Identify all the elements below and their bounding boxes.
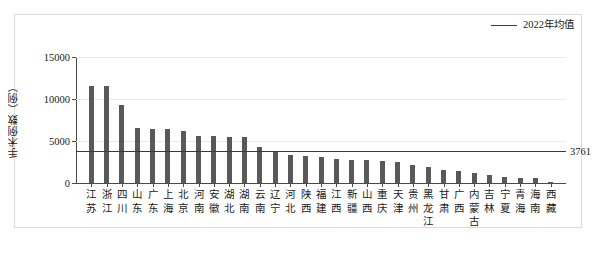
legend-line-swatch: [491, 25, 517, 26]
x-tick-label: 上海: [161, 188, 174, 215]
bar: [104, 86, 109, 183]
x-tick-mark: [551, 183, 552, 187]
x-tick-mark: [505, 183, 506, 187]
x-tick-label: 吉林: [483, 188, 496, 215]
x-axis-labels: 江苏浙江四川山东广东上海北京河南安徽湖北湖南云南辽宁河北陕西福建江西新疆山西重庆…: [76, 188, 566, 246]
mean-reference-line: [76, 151, 566, 152]
x-tick-mark: [535, 183, 536, 187]
x-tick-mark: [398, 183, 399, 187]
bar: [196, 136, 201, 183]
x-tick-mark: [382, 183, 383, 187]
x-tick-label: 云南: [253, 188, 266, 215]
x-tick-label: 新疆: [345, 188, 358, 215]
x-tick-mark: [459, 183, 460, 187]
x-tick-label: 青海: [514, 188, 527, 215]
y-tick-label: 10000: [44, 94, 70, 105]
chart-legend: 2022年均值: [491, 18, 574, 32]
bar-chart-figure: 2022年均值 手术例数（例） 050001000015000 3761 江苏浙…: [0, 0, 596, 256]
x-tick-mark: [107, 183, 108, 187]
bar: [273, 152, 278, 183]
x-tick-label: 北京: [177, 188, 190, 215]
bar-series: [76, 57, 566, 183]
x-tick-mark: [489, 183, 490, 187]
x-tick-label: 安徽: [207, 188, 220, 215]
x-tick-label: 浙江: [100, 188, 113, 215]
x-tick-mark: [214, 183, 215, 187]
y-tick-label: 0: [65, 178, 70, 189]
x-tick-label: 广东: [146, 188, 159, 215]
bar: [150, 129, 155, 183]
x-tick-label: 内蒙古: [468, 188, 481, 229]
bar: [364, 160, 369, 183]
bar: [441, 170, 446, 183]
bar: [395, 162, 400, 183]
y-tick-label: 5000: [49, 136, 70, 147]
x-tick-label: 湖北: [223, 188, 236, 215]
x-tick-label: 山西: [360, 188, 373, 215]
legend-label: 2022年均值: [523, 19, 574, 31]
x-tick-label: 广西: [452, 188, 465, 215]
x-tick-mark: [352, 183, 353, 187]
x-tick-label: 甘肃: [437, 188, 450, 215]
bar: [211, 136, 216, 183]
x-tick-label: 黑龙江: [422, 188, 435, 229]
x-tick-label: 江西: [330, 188, 343, 215]
x-tick-mark: [336, 183, 337, 187]
x-tick-label: 湖南: [238, 188, 251, 215]
x-tick-mark: [321, 183, 322, 187]
bar: [181, 131, 186, 183]
x-tick-mark: [367, 183, 368, 187]
plot-area: 050001000015000 3761: [76, 57, 566, 183]
x-tick-mark: [137, 183, 138, 187]
x-tick-mark: [183, 183, 184, 187]
bar: [487, 175, 492, 183]
y-axis-title: 手术例数（例）: [6, 56, 22, 184]
x-tick-label: 天津: [391, 188, 404, 215]
x-tick-label: 四川: [115, 188, 128, 215]
x-tick-mark: [275, 183, 276, 187]
x-tick-mark: [122, 183, 123, 187]
x-tick-label: 重庆: [376, 188, 389, 215]
x-tick-label: 陕西: [299, 188, 312, 215]
bar: [242, 137, 247, 183]
x-tick-mark: [260, 183, 261, 187]
bar: [456, 171, 461, 183]
x-tick-label: 山东: [131, 188, 144, 215]
x-tick-label: 辽宁: [269, 188, 282, 215]
x-tick-label: 河南: [192, 188, 205, 215]
mean-value-label: 3761: [570, 146, 591, 157]
bar: [334, 159, 339, 183]
x-tick-mark: [168, 183, 169, 187]
bar: [288, 155, 293, 183]
x-tick-mark: [153, 183, 154, 187]
bar: [349, 160, 354, 183]
x-tick-mark: [290, 183, 291, 187]
x-tick-label: 西藏: [544, 188, 557, 215]
x-tick-mark: [428, 183, 429, 187]
bar: [227, 137, 232, 183]
y-tick-mark: [72, 183, 76, 184]
x-tick-mark: [474, 183, 475, 187]
bar: [165, 129, 170, 183]
x-tick-mark: [244, 183, 245, 187]
x-tick-label: 宁夏: [498, 188, 511, 215]
x-tick-mark: [444, 183, 445, 187]
x-tick-label: 江苏: [85, 188, 98, 215]
x-tick-label: 贵州: [406, 188, 419, 215]
bar: [135, 128, 140, 183]
x-tick-mark: [229, 183, 230, 187]
bar: [426, 167, 431, 183]
bar: [472, 173, 477, 183]
bar: [410, 165, 415, 183]
x-tick-mark: [199, 183, 200, 187]
y-tick-label: 15000: [44, 52, 70, 63]
bar: [319, 157, 324, 183]
x-tick-label: 海南: [529, 188, 542, 215]
x-tick-mark: [413, 183, 414, 187]
bar: [89, 86, 94, 183]
x-tick-label: 河北: [284, 188, 297, 215]
x-tick-mark: [306, 183, 307, 187]
x-tick-label: 福建: [315, 188, 328, 215]
bar: [119, 105, 124, 183]
bar: [303, 156, 308, 183]
